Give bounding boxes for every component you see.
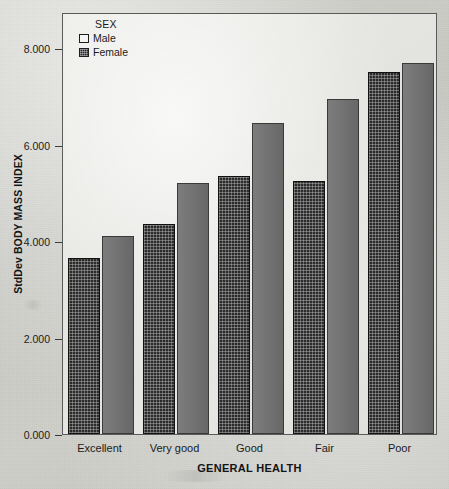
y-tick-label: 0.000 <box>0 429 50 441</box>
y-tick-mark <box>55 242 62 243</box>
bar-fair-male <box>293 181 325 434</box>
y-tick-label: 2.000 <box>0 333 50 345</box>
x-tick-label-excellent: Excellent <box>77 442 122 454</box>
bar-good-female <box>252 123 284 434</box>
y-tick-mark <box>55 49 62 50</box>
y-tick-mark <box>55 339 62 340</box>
bar-poor-female <box>402 63 434 434</box>
legend-item-male: Male <box>79 32 128 45</box>
bar-excellent-male <box>68 258 100 434</box>
bar-very-good-male <box>143 224 175 434</box>
y-axis-title-text: StdDev BODY MASS INDEX <box>12 154 24 294</box>
x-tick-label-very-good: Very good <box>150 442 200 454</box>
x-axis-title: GENERAL HEALTH <box>62 462 437 474</box>
bar-very-good-female <box>177 183 209 434</box>
x-tick-label-good: Good <box>236 442 263 454</box>
bar-good-male <box>218 176 250 435</box>
legend-label-female: Female <box>93 46 128 59</box>
y-axis-title: StdDev BODY MASS INDEX <box>10 13 26 435</box>
y-tick-label: 4.000 <box>0 236 50 248</box>
plot-area: SEX Male Female <box>62 13 437 435</box>
legend-title: SEX <box>95 18 128 31</box>
x-tick-label-fair: Fair <box>315 442 334 454</box>
y-tick-label: 8.000 <box>0 43 50 55</box>
x-tick-label-poor: Poor <box>388 442 411 454</box>
y-tick-label: 6.000 <box>0 140 50 152</box>
legend-label-male: Male <box>93 32 116 45</box>
bar-excellent-female <box>102 236 134 434</box>
legend-item-female: Female <box>79 46 128 59</box>
y-tick-mark <box>55 146 62 147</box>
legend: SEX Male Female <box>79 18 128 59</box>
legend-swatch-male-icon <box>79 34 89 43</box>
legend-swatch-female-icon <box>79 48 89 57</box>
bar-poor-male <box>368 72 400 434</box>
y-tick-mark <box>55 435 62 436</box>
bar-fair-female <box>327 99 359 434</box>
plot-inner: SEX Male Female <box>63 14 436 434</box>
